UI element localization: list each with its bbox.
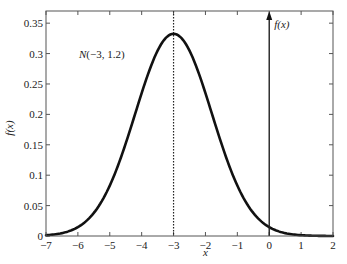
plot-frame (46, 11, 333, 236)
x-tick-label: 1 (298, 239, 304, 251)
x-tick-label: −1 (231, 239, 243, 251)
y-tick-label: 0.3 (29, 48, 43, 60)
y-tick-label: 0 (38, 230, 44, 242)
tick-labels: −7−6−5−4−3−2−101200.050.10.150.20.250.30… (24, 17, 336, 251)
fx-arrow-label: f(x) (274, 18, 290, 31)
axis-ticks (46, 11, 333, 236)
arrow-up-icon (266, 11, 272, 20)
y-tick-label: 0.15 (24, 139, 44, 151)
normal-distribution-chart: −7−6−5−4−3−2−101200.050.10.150.20.250.30… (0, 0, 347, 264)
x-tick-label: 2 (330, 239, 336, 251)
y-tick-label: 0.35 (24, 17, 44, 29)
y-tick-label: 0.1 (29, 169, 43, 181)
y-tick-label: 0.05 (24, 200, 44, 212)
distribution-annotation: N(−3, 1.2) (78, 48, 125, 61)
y-tick-label: 0.25 (24, 78, 44, 90)
x-tick-label: −3 (168, 239, 180, 251)
x-tick-label: −6 (72, 239, 84, 251)
y-tick-label: 0.2 (29, 108, 43, 120)
x-tick-label: −4 (136, 239, 148, 251)
x-tick-label: 0 (266, 239, 272, 251)
y-axis-label: f(x) (3, 120, 16, 136)
density-curve (46, 34, 333, 236)
x-tick-label: −5 (104, 239, 116, 251)
x-axis-label: x (202, 246, 208, 258)
